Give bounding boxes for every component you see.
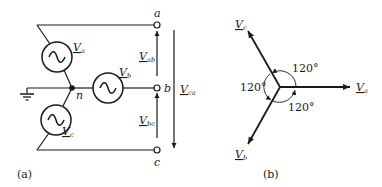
terminal-c-label: c bbox=[154, 156, 160, 169]
caption-a: (a) bbox=[17, 168, 32, 181]
three-phase-diagram: a b c n V a V b V c V ab V bc V ca (a) V… bbox=[0, 0, 382, 187]
terminal-b bbox=[154, 85, 160, 91]
neutral-label: n bbox=[76, 89, 83, 102]
vca-sub: ca bbox=[188, 89, 196, 97]
circuit-figure-a bbox=[20, 22, 174, 153]
angle-label-3: 120° bbox=[288, 101, 315, 114]
terminal-b-label: b bbox=[164, 82, 171, 95]
caption-b: (b) bbox=[263, 168, 279, 181]
sine-icon bbox=[49, 52, 65, 63]
vab-sub: ab bbox=[147, 56, 155, 64]
sine-icon bbox=[48, 115, 64, 126]
phasor-vb bbox=[248, 87, 280, 144]
terminal-c bbox=[154, 147, 160, 153]
phasor-vc bbox=[248, 31, 280, 87]
phasor-va-sub: a bbox=[364, 87, 368, 95]
wire-va-n bbox=[64, 70, 72, 88]
terminal-a bbox=[154, 22, 160, 28]
source-vb-sub: b bbox=[127, 72, 131, 80]
wire-a-diag bbox=[37, 25, 50, 44]
ground-icon bbox=[20, 88, 34, 100]
phasor-vb-sub: b bbox=[243, 154, 247, 162]
sine-icon bbox=[100, 83, 116, 94]
vbc-sub: bc bbox=[147, 120, 155, 128]
angle-label-2: 120° bbox=[240, 81, 267, 94]
labels-figure-a: a b c n V a V b V c V ab V bc V ca (a) bbox=[17, 7, 196, 181]
source-va-sub: a bbox=[81, 47, 85, 55]
phasor-vc-sub: c bbox=[243, 24, 247, 32]
angle-label-1: 120° bbox=[292, 62, 319, 75]
wire-vc-c-diag bbox=[37, 133, 49, 150]
terminal-a-label: a bbox=[154, 7, 161, 20]
source-vc-sub: c bbox=[70, 131, 74, 139]
wire-n-vc bbox=[63, 88, 72, 106]
